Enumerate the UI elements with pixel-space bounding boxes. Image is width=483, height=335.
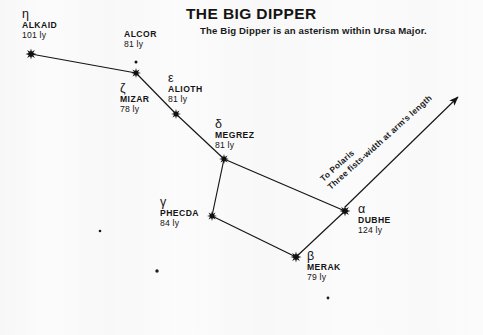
star-marker-phecda [207, 211, 217, 221]
star-distance-phecda: 84 ly [160, 219, 199, 228]
star-greek-alioth: ε [168, 72, 203, 85]
star-marker-alcor [135, 61, 138, 64]
star-marker-dubhe [340, 206, 351, 217]
star-label-alioth: εALIOTH81 ly [168, 72, 203, 104]
star-name-phecda: PHECDA [160, 209, 199, 218]
star-distance-alcor: 81 ly [124, 40, 157, 49]
star-greek-mizar: ζ [120, 82, 149, 95]
star-greek-phecda: γ [160, 196, 199, 209]
star-label-phecda: γPHECDA84 ly [160, 196, 199, 228]
field-star-2 [155, 269, 158, 272]
star-marker-alioth [171, 109, 181, 119]
star-label-alkaid: ηALKAID101 ly [22, 8, 57, 40]
star-name-megrez: MEGREZ [215, 131, 254, 140]
star-distance-mizar: 78 ly [120, 105, 149, 114]
star-label-merak: βMERAK79 ly [307, 250, 341, 282]
star-greek-megrez: δ [215, 118, 254, 131]
constellation-line [212, 216, 296, 257]
star-name-alkaid: ALKAID [22, 21, 57, 30]
title-block: THE BIG DIPPER The Big Dipper is an aste… [186, 6, 476, 37]
star-name-alcor: ALCOR [124, 30, 157, 39]
star-name-mizar: MIZAR [120, 95, 149, 104]
star-label-alcor: ALCOR81 ly [124, 30, 157, 49]
star-distance-merak: 79 ly [307, 273, 341, 282]
star-marker-mizar [131, 68, 141, 78]
star-label-mizar: ζMIZAR78 ly [120, 82, 149, 114]
star-chart-canvas [0, 0, 483, 335]
star-marker-megrez [219, 154, 229, 164]
constellation-line [212, 159, 224, 216]
field-star-1 [99, 230, 102, 233]
star-distance-alioth: 81 ly [168, 95, 203, 104]
page-title: THE BIG DIPPER [186, 6, 476, 22]
star-greek-alkaid: η [22, 8, 57, 21]
star-name-alioth: ALIOTH [168, 85, 203, 94]
star-name-merak: MERAK [307, 263, 341, 272]
star-distance-alkaid: 101 ly [22, 31, 57, 40]
constellation-line [31, 54, 136, 73]
star-distance-dubhe: 124 ly [358, 226, 391, 235]
field-star-3 [327, 297, 330, 300]
star-label-dubhe: αDUBHE124 ly [358, 203, 391, 235]
star-greek-dubhe: α [358, 203, 391, 216]
star-distance-megrez: 81 ly [215, 141, 254, 150]
star-greek-merak: β [307, 250, 341, 263]
star-name-dubhe: DUBHE [358, 216, 391, 225]
star-marker-merak [291, 252, 302, 263]
subtitle: The Big Dipper is an asterism within Urs… [200, 26, 476, 37]
star-label-megrez: δMEGREZ81 ly [215, 118, 254, 150]
star-marker-alkaid [26, 49, 37, 60]
big-dipper-diagram: THE BIG DIPPER The Big Dipper is an aste… [0, 0, 483, 335]
field-stars [99, 230, 330, 300]
